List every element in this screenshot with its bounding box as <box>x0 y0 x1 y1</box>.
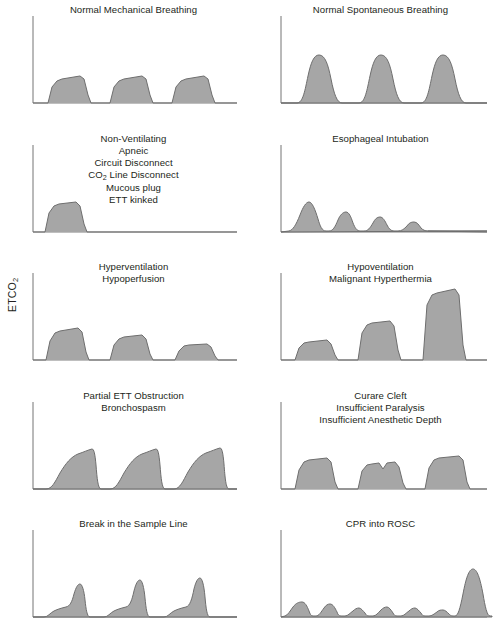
panel-esophageal-intubation: Esophageal Intubation <box>247 129 494 258</box>
waveform-plot-hyperventilation-hypoperfusion <box>0 257 247 386</box>
panel-normal-spontaneous-breathing: Normal Spontaneous Breathing <box>247 0 494 129</box>
panel-normal-mechanical-breathing: Normal Mechanical Breathing <box>0 0 247 129</box>
panel-hyperventilation-hypoperfusion: HyperventilationHypoperfusion <box>0 257 247 386</box>
panel-grid: Normal Mechanical Breathing Normal Spont… <box>0 0 494 643</box>
panel-cpr-into-rosc: CPR into ROSC <box>247 514 494 643</box>
panel-partial-ett-obstruction: Partial ETT ObstructionBronchospasm <box>0 386 247 515</box>
waveform-plot-break-in-sample-line <box>0 514 247 643</box>
waveform-plot-esophageal-intubation <box>247 129 494 258</box>
panel-hypoventilation-malignant-hyperthermia: HypoventilationMalignant Hyperthermia <box>247 257 494 386</box>
waveform-plot-partial-ett-obstruction <box>0 386 247 515</box>
panel-non-ventilating: Non-VentilatingApneicCircuit DisconnectC… <box>0 129 247 258</box>
panel-curare-cleft: Curare CleftInsufficient ParalysisInsuff… <box>247 386 494 515</box>
waveform-plot-non-ventilating <box>0 129 247 258</box>
waveform-plot-curare-cleft <box>247 386 494 515</box>
waveform-plot-normal-mechanical-breathing <box>0 0 247 129</box>
waveform-plot-hypoventilation-malignant-hyperthermia <box>247 257 494 386</box>
waveform-plot-cpr-into-rosc <box>247 514 494 643</box>
capnography-figure: ETCO2 Normal Mechanical Breathing Normal… <box>0 0 494 643</box>
panel-break-in-sample-line: Break in the Sample Line <box>0 514 247 643</box>
waveform-plot-normal-spontaneous-breathing <box>247 0 494 129</box>
